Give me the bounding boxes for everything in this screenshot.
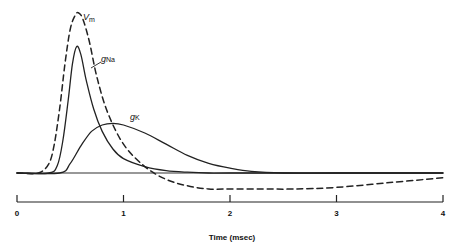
- gna-leader-line: [91, 62, 101, 68]
- vm-curve: [17, 12, 443, 189]
- x-axis-title: Time (msec): [209, 233, 256, 242]
- x-tick-label: 0: [15, 209, 20, 218]
- x-tick-label: 1: [121, 209, 126, 218]
- gna-label: gNa: [101, 54, 115, 64]
- x-tick-label: 2: [228, 209, 233, 218]
- x-tick-label: 4: [441, 209, 446, 218]
- gna-curve: [17, 46, 443, 173]
- x-tick-label: 3: [334, 209, 339, 218]
- x-axis-ticks: 01234: [15, 195, 446, 218]
- action-potential-chart: Vm gNa gK 01234 Time (msec): [0, 0, 459, 245]
- x-axis: 01234 Time (msec): [15, 195, 446, 242]
- gk-label: gK: [130, 112, 140, 122]
- vm-label: Vm: [83, 12, 95, 23]
- gk-curve: [17, 123, 443, 173]
